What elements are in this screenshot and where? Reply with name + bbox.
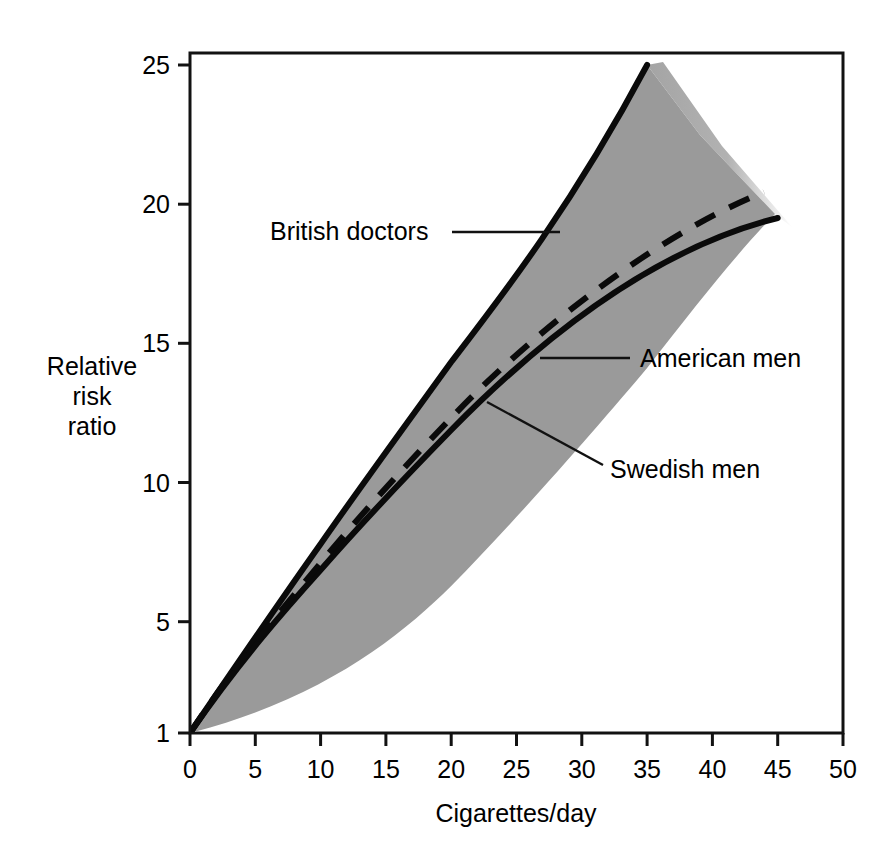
x-tick-label-25: 25 [503,755,531,783]
x-tick-label-45: 45 [764,755,792,783]
y-tick-label-20: 20 [142,190,170,218]
x-tick-label-35: 35 [633,755,661,783]
annotation-label-american-men: American men [640,344,801,372]
y-tick-label-5: 5 [156,608,170,636]
x-tick-label-40: 40 [698,755,726,783]
y-tick-label-25: 25 [142,51,170,79]
x-axis-title: Cigarettes/day [435,799,597,827]
y-axis-ticks [178,65,190,733]
x-tick-label-10: 10 [307,755,335,783]
y-axis-title-line-1: Relative [47,352,137,380]
band-and-curves [190,62,793,733]
x-tick-label-50: 50 [829,755,857,783]
annotation-label-british-doctors: British doctors [270,217,428,245]
chart-figure: 1 5 10 15 20 25 0 5 10 15 20 [0,0,894,850]
y-tick-label-15: 15 [142,329,170,357]
x-tick-label-30: 30 [568,755,596,783]
x-tick-label-20: 20 [437,755,465,783]
x-tick-label-5: 5 [248,755,262,783]
y-tick-label-10: 10 [142,469,170,497]
x-axis-ticks [190,733,843,746]
y-axis-tick-labels: 1 5 10 15 20 25 [142,51,170,747]
y-tick-label-1: 1 [156,719,170,747]
relative-risk-chart: 1 5 10 15 20 25 0 5 10 15 20 [0,0,894,850]
y-axis-title-line-2: risk [73,382,112,410]
x-tick-label-0: 0 [183,755,197,783]
x-tick-label-15: 15 [372,755,400,783]
x-axis-tick-labels: 0 5 10 15 20 25 30 35 40 45 50 [183,755,857,783]
annotation-british-doctors: British doctors [270,217,560,245]
y-axis-title: Relative risk ratio [47,352,137,440]
y-axis-title-line-3: ratio [68,412,117,440]
annotation-label-swedish-men: Swedish men [610,455,760,483]
